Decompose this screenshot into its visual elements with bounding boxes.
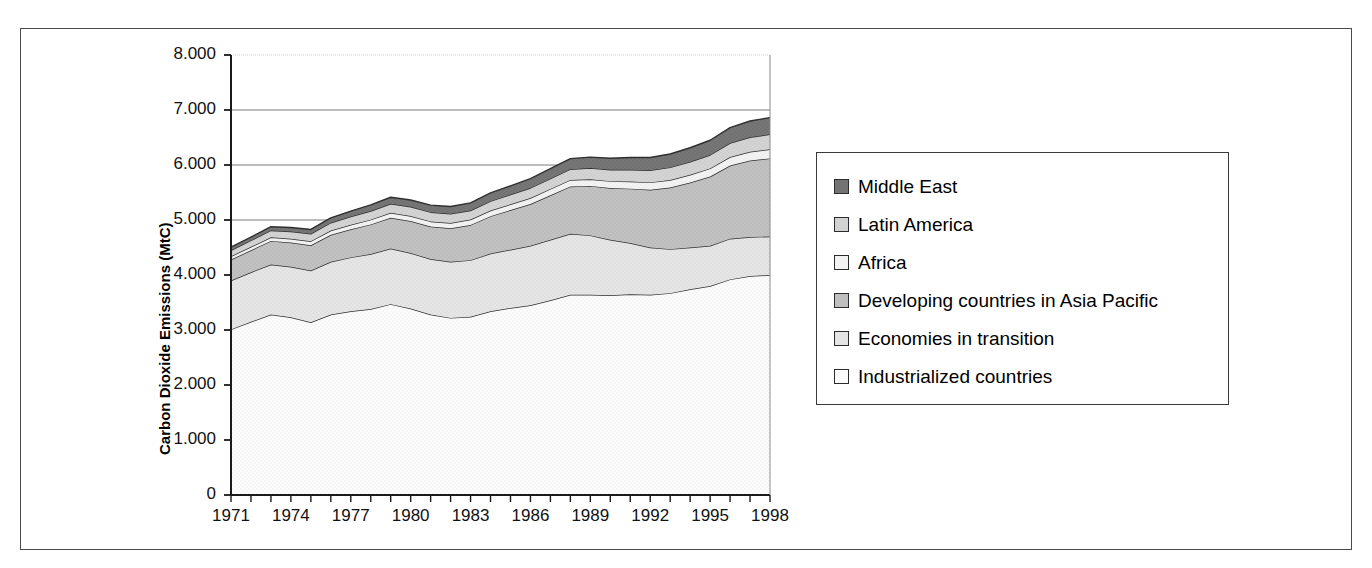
y-tick-label: 7.000 xyxy=(146,99,216,119)
legend-swatch-icon xyxy=(834,293,849,308)
legend-swatch-icon xyxy=(834,217,849,232)
legend-item-label: Africa xyxy=(858,253,907,272)
legend-item[interactable]: Middle East xyxy=(817,167,1228,205)
legend-item[interactable]: Economies in transition xyxy=(817,319,1228,357)
x-tick-label: 1974 xyxy=(261,506,321,526)
y-tick-label: 6.000 xyxy=(146,154,216,174)
legend-swatch-icon xyxy=(834,369,849,384)
legend-swatch-icon xyxy=(834,255,849,270)
x-tick-label: 1998 xyxy=(740,506,800,526)
legend-swatch-icon xyxy=(834,331,849,346)
y-tick-label: 3.000 xyxy=(146,319,216,339)
x-tick-label: 1971 xyxy=(201,506,261,526)
x-tick-label: 1977 xyxy=(321,506,381,526)
y-tick-label: 0 xyxy=(146,484,216,504)
legend-item-label: Industrialized countries xyxy=(858,367,1052,386)
y-tick-label: 5.000 xyxy=(146,209,216,229)
figure-root: Carbon Dioxide Emissions (MtC) 01.0002.0… xyxy=(0,0,1372,568)
x-tick-label: 1980 xyxy=(381,506,441,526)
x-tick-label: 1992 xyxy=(620,506,680,526)
y-tick-label: 4.000 xyxy=(146,264,216,284)
legend-item-label: Latin America xyxy=(858,215,973,234)
x-tick-label: 1986 xyxy=(500,506,560,526)
y-tick-label: 1.000 xyxy=(146,429,216,449)
legend-item[interactable]: Industrialized countries xyxy=(817,357,1228,395)
legend: Middle EastLatin AmericaAfricaDeveloping… xyxy=(816,152,1229,405)
x-tick-label: 1983 xyxy=(441,506,501,526)
y-tick-label: 2.000 xyxy=(146,374,216,394)
legend-item-label: Middle East xyxy=(858,177,957,196)
x-tick-label: 1995 xyxy=(680,506,740,526)
legend-item[interactable]: Developing countries in Asia Pacific xyxy=(817,281,1228,319)
y-tick-label: 8.000 xyxy=(146,44,216,64)
legend-swatch-icon xyxy=(834,179,849,194)
legend-item-label: Economies in transition xyxy=(858,329,1054,348)
legend-item-label: Developing countries in Asia Pacific xyxy=(858,291,1158,310)
legend-item[interactable]: Latin America xyxy=(817,205,1228,243)
x-tick-label: 1989 xyxy=(560,506,620,526)
legend-item[interactable]: Africa xyxy=(817,243,1228,281)
